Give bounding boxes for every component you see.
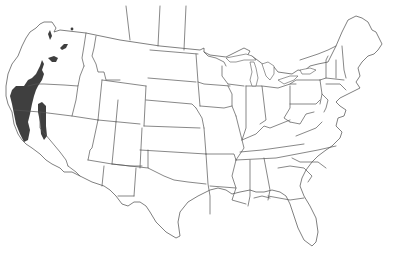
border-nd-mn [184,6,186,50]
border-mt-nd [158,6,160,46]
range-idaho-dot [71,28,74,31]
us-outline [6,16,382,246]
border-mt-internal [126,6,130,40]
coastline [6,16,382,246]
us-map-svg [0,0,409,264]
range-map [0,0,409,264]
border-al-fl [254,196,270,198]
